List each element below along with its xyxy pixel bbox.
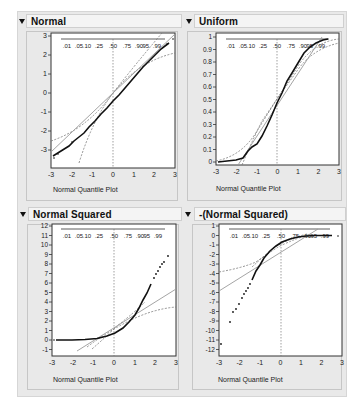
- svg-text:-3: -3: [213, 168, 219, 175]
- svg-text:-1: -1: [41, 108, 47, 115]
- panel-normal-squared: Normal Squared .01.05.10 .25.50.75 .90.9…: [17, 204, 182, 397]
- svg-text:.10: .10: [83, 233, 92, 239]
- svg-text:2: 2: [44, 317, 48, 324]
- svg-text:11: 11: [41, 232, 48, 239]
- svg-text:-3: -3: [209, 260, 215, 267]
- svg-text:0.8: 0.8: [203, 58, 212, 65]
- svg-text:0.4: 0.4: [203, 108, 212, 115]
- svg-text:-5: -5: [209, 279, 215, 286]
- svg-text:.95: .95: [141, 43, 150, 49]
- svg-text:3: 3: [43, 32, 47, 39]
- svg-text:-4: -4: [209, 270, 215, 277]
- svg-text:0: 0: [276, 168, 280, 175]
- svg-text:-3: -3: [216, 359, 222, 366]
- svg-text:.95: .95: [142, 233, 151, 239]
- svg-text:.75: .75: [287, 43, 296, 49]
- svg-text:-3: -3: [49, 359, 55, 366]
- svg-text:0: 0: [111, 171, 115, 178]
- x-axis-title: Normal Quantile Plot: [218, 376, 283, 383]
- svg-text:-6: -6: [209, 289, 215, 296]
- svg-text:.01: .01: [63, 43, 72, 49]
- svg-text:-1: -1: [257, 359, 263, 366]
- svg-text:3: 3: [44, 308, 48, 315]
- svg-text:-2: -2: [41, 127, 47, 134]
- x-axis-title: Normal Quantile Plot: [53, 186, 118, 193]
- svg-text:0: 0: [211, 232, 215, 239]
- panel-normal: Normal .01.05.10 .25.50.75 .90.95.99 321…: [17, 11, 182, 204]
- svg-text:-11: -11: [206, 336, 215, 343]
- svg-text:1: 1: [133, 359, 137, 366]
- svg-text:7: 7: [44, 270, 48, 277]
- svg-text:-12: -12: [206, 346, 216, 353]
- svg-text:12: 12: [41, 222, 49, 229]
- svg-text:2: 2: [43, 51, 47, 58]
- svg-text:-1: -1: [89, 171, 95, 178]
- svg-text:.99: .99: [154, 233, 163, 239]
- svg-text:-2: -2: [69, 171, 75, 178]
- svg-text:-2: -2: [233, 168, 239, 175]
- svg-text:.10: .10: [83, 43, 92, 49]
- svg-text:6: 6: [44, 279, 48, 286]
- svg-text:0: 0: [279, 359, 283, 366]
- svg-text:1: 1: [211, 222, 215, 229]
- svg-text:.01: .01: [63, 233, 72, 239]
- svg-text:-7: -7: [209, 298, 215, 305]
- normal-squared-quantile-chart: .01.05.10 .25.50.75 .90.95.99 1211109 87…: [17, 204, 182, 397]
- svg-text:2: 2: [152, 171, 156, 178]
- svg-text:.01: .01: [230, 233, 239, 239]
- svg-text:.01: .01: [227, 43, 236, 49]
- svg-text:10: 10: [41, 241, 49, 248]
- uniform-quantile-chart: .01.05.10 .25.50.75 .90.95.99 10.90.80.7…: [182, 11, 347, 204]
- svg-text:0.2: 0.2: [203, 133, 212, 140]
- svg-text:0.1: 0.1: [203, 146, 212, 153]
- x-axis-title: Normal Quantile Plot: [53, 376, 118, 383]
- svg-text:9: 9: [44, 251, 48, 258]
- svg-text:0: 0: [208, 158, 212, 165]
- svg-text:1: 1: [43, 70, 47, 77]
- svg-text:1: 1: [44, 327, 48, 334]
- svg-text:5: 5: [44, 289, 48, 296]
- x-axis-title: Normal Quantile Plot: [216, 185, 281, 192]
- svg-text:-3: -3: [48, 171, 54, 178]
- svg-text:-8: -8: [209, 308, 215, 315]
- svg-text:-10: -10: [206, 327, 216, 334]
- normal-quantile-chart: .01.05.10 .25.50.75 .90.95.99 321 0-1-2-…: [17, 11, 182, 204]
- svg-text:1: 1: [296, 168, 300, 175]
- svg-text:-2: -2: [70, 359, 76, 366]
- svg-text:-1: -1: [254, 168, 260, 175]
- svg-text:4: 4: [44, 298, 48, 305]
- negative-normal-squared-quantile-chart: .01.05.10 .25.50.75 .90.95.99 10-1-2 -3-…: [182, 204, 347, 397]
- svg-text:-3: -3: [41, 146, 47, 153]
- svg-text:1: 1: [299, 359, 303, 366]
- svg-text:3: 3: [340, 359, 344, 366]
- svg-text:-9: -9: [209, 317, 215, 324]
- svg-text:8: 8: [44, 260, 48, 267]
- svg-text:-1: -1: [90, 359, 96, 366]
- svg-text:-1: -1: [42, 346, 48, 353]
- svg-text:3: 3: [173, 171, 177, 178]
- svg-text:0.3: 0.3: [203, 121, 212, 128]
- svg-text:0.7: 0.7: [203, 71, 212, 78]
- svg-text:-2: -2: [209, 251, 215, 258]
- svg-text:0: 0: [43, 89, 47, 96]
- svg-text:3: 3: [337, 168, 341, 175]
- svg-text:.75: .75: [123, 43, 132, 49]
- svg-text:0.6: 0.6: [203, 83, 212, 90]
- panel-negative-normal-squared: -(Normal Squared) .01.05.10 .25.50.75 .9…: [182, 204, 347, 397]
- svg-text:3: 3: [174, 359, 178, 366]
- svg-text:0.9: 0.9: [203, 46, 212, 53]
- svg-text:-2: -2: [236, 359, 242, 366]
- svg-text:1: 1: [132, 171, 136, 178]
- svg-text:0: 0: [44, 336, 48, 343]
- svg-text:1: 1: [208, 33, 212, 40]
- svg-text:-1: -1: [209, 241, 215, 248]
- svg-text:.10: .10: [250, 233, 259, 239]
- svg-text:0.5: 0.5: [203, 96, 212, 103]
- svg-text:0: 0: [112, 359, 116, 366]
- svg-text:.75: .75: [124, 233, 133, 239]
- svg-text:2: 2: [317, 168, 321, 175]
- svg-text:2: 2: [320, 359, 324, 366]
- svg-text:.25: .25: [262, 233, 271, 239]
- svg-text:.25: .25: [95, 43, 104, 49]
- svg-text:2: 2: [153, 359, 157, 366]
